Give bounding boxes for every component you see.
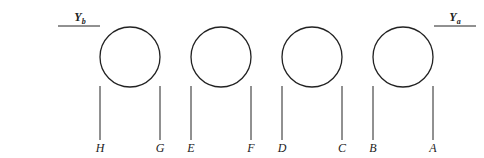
- circle-4: [373, 27, 433, 87]
- line-label-e: E: [187, 141, 194, 156]
- line-label-a: A: [429, 141, 436, 156]
- line-label-f: F: [247, 141, 254, 156]
- circle-3: [282, 27, 342, 87]
- top-label-yb: Yb: [74, 10, 85, 26]
- circle-1: [100, 27, 160, 87]
- line-label-b: B: [369, 141, 376, 156]
- line-label-g: G: [156, 141, 165, 156]
- top-label-ya: Ya: [449, 10, 460, 26]
- line-label-h: H: [96, 141, 105, 156]
- line-label-d: D: [278, 141, 287, 156]
- diagram-canvas: [0, 0, 484, 158]
- line-label-c: C: [338, 141, 346, 156]
- circle-2: [191, 27, 251, 87]
